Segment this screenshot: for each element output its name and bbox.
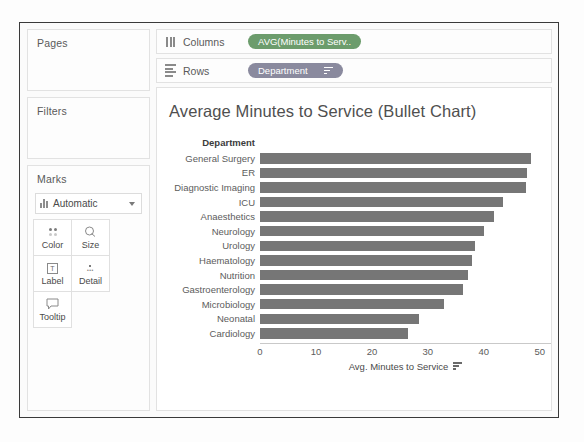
- marks-tooltip-button[interactable]: Tooltip: [33, 291, 72, 328]
- marks-size-button[interactable]: Size: [71, 219, 110, 256]
- category-label: Nutrition: [157, 270, 260, 281]
- x-axis-tick: 50: [535, 346, 546, 357]
- marks-label-label: Label: [41, 277, 63, 286]
- bar-track: [260, 209, 551, 224]
- rows-shelf-label: Rows: [183, 65, 241, 77]
- bar-mark[interactable]: [260, 197, 503, 208]
- bar-mark[interactable]: [260, 153, 531, 164]
- bar-track: [260, 239, 551, 254]
- left-panel: Pages Filters Marks Automatic: [20, 23, 156, 417]
- rows-shelf[interactable]: Rows Department: [156, 58, 552, 83]
- marks-size-label: Size: [82, 241, 100, 250]
- bar-mark[interactable]: [260, 211, 494, 222]
- table-row[interactable]: Neurology: [157, 224, 551, 239]
- pill-avg-minutes-to-service[interactable]: AVG(Minutes to Serv..: [248, 34, 361, 49]
- pages-card[interactable]: Pages: [27, 29, 150, 91]
- x-axis-tick: 10: [311, 346, 322, 357]
- page-title: Average Minutes to Service (Bullet Chart…: [169, 102, 476, 121]
- category-label: Cardiology: [157, 328, 260, 339]
- x-axis-title[interactable]: Avg. Minutes to Service: [260, 361, 551, 372]
- category-label: General Surgery: [157, 153, 260, 164]
- tableau-worksheet-window: Pages Filters Marks Automatic: [19, 22, 559, 418]
- columns-shelf-label: Columns: [183, 36, 241, 48]
- chart-view[interactable]: Average Minutes to Service (Bullet Chart…: [156, 87, 552, 411]
- category-label: Haematology: [157, 255, 260, 266]
- bar-track: [260, 297, 551, 312]
- rows-icon: [165, 66, 176, 76]
- pill-avg-minutes-to-service-label: AVG(Minutes to Serv..: [258, 36, 351, 47]
- bar-mark[interactable]: [260, 226, 484, 237]
- marks-label-button[interactable]: T Label: [33, 255, 72, 292]
- table-row[interactable]: ICU: [157, 195, 551, 210]
- table-row[interactable]: Nutrition: [157, 268, 551, 283]
- bar-track: [260, 180, 551, 195]
- svg-text:T: T: [50, 265, 55, 272]
- marks-color-label: Color: [42, 241, 64, 250]
- filters-card[interactable]: Filters: [27, 97, 150, 159]
- sort-descending-icon[interactable]: [324, 67, 333, 75]
- bar-chart-icon: [40, 199, 48, 208]
- marks-color-button[interactable]: Color: [33, 219, 72, 256]
- table-row[interactable]: Microbiology: [157, 297, 551, 312]
- marks-detail-button[interactable]: ••• Detail: [71, 255, 110, 292]
- category-label: Diagnostic Imaging: [157, 182, 260, 193]
- detail-dots-icon: •••: [87, 262, 94, 275]
- bar-track: [260, 253, 551, 268]
- table-row[interactable]: Cardiology: [157, 326, 551, 341]
- bar-mark[interactable]: [260, 284, 463, 295]
- bar-mark[interactable]: [260, 314, 419, 325]
- category-header-row: Department: [157, 136, 551, 148]
- category-label: Anaesthetics: [157, 211, 260, 222]
- bar-mark[interactable]: [260, 270, 468, 281]
- table-row[interactable]: General Surgery: [157, 151, 551, 166]
- marks-type-value: Automatic: [53, 198, 124, 209]
- table-row[interactable]: Urology: [157, 239, 551, 254]
- right-panel: Columns AVG(Minutes to Serv.. Rows Depar…: [156, 23, 558, 417]
- x-axis-title-label: Avg. Minutes to Service: [349, 361, 449, 372]
- columns-shelf[interactable]: Columns AVG(Minutes to Serv..: [156, 29, 552, 54]
- bar-mark[interactable]: [260, 168, 527, 179]
- table-row[interactable]: ER: [157, 166, 551, 181]
- color-dots-icon: [49, 226, 57, 239]
- marks-type-dropdown[interactable]: Automatic: [35, 193, 142, 214]
- category-label: ICU: [157, 197, 260, 208]
- columns-icon: [165, 37, 176, 47]
- table-row[interactable]: Anaesthetics: [157, 209, 551, 224]
- bar-track: [260, 166, 551, 181]
- plot-area: Department General SurgeryERDiagnostic I…: [157, 136, 551, 410]
- chevron-down-icon[interactable]: [129, 202, 135, 206]
- bar-mark[interactable]: [260, 328, 408, 339]
- bar-rows: General SurgeryERDiagnostic ImagingICUAn…: [157, 151, 551, 341]
- marks-detail-label: Detail: [79, 277, 102, 286]
- bar-mark[interactable]: [260, 182, 526, 193]
- marks-card: Marks Automatic Color: [27, 165, 150, 411]
- bar-track: [260, 224, 551, 239]
- x-axis-tick: 0: [257, 346, 262, 357]
- pill-department[interactable]: Department: [248, 63, 343, 78]
- category-label: ER: [157, 167, 260, 178]
- marks-tooltip-label: Tooltip: [39, 313, 65, 322]
- bar-mark[interactable]: [260, 241, 475, 252]
- category-label: Neonatal: [157, 313, 260, 324]
- bar-mark[interactable]: [260, 299, 444, 310]
- table-row[interactable]: Haematology: [157, 253, 551, 268]
- category-label: Urology: [157, 240, 260, 251]
- pages-card-title: Pages: [28, 30, 149, 49]
- bar-track: [260, 282, 551, 297]
- category-label: Gastroenterology: [157, 284, 260, 295]
- x-axis: 01020304050: [260, 343, 551, 358]
- x-axis-tick: 40: [479, 346, 490, 357]
- size-circle-icon: [84, 226, 97, 239]
- table-row[interactable]: Gastroenterology: [157, 282, 551, 297]
- tooltip-bubble-icon: [46, 298, 59, 311]
- filters-card-title: Filters: [28, 98, 149, 117]
- table-row[interactable]: Diagnostic Imaging: [157, 180, 551, 195]
- x-axis-tick: 20: [367, 346, 378, 357]
- pill-department-label: Department: [258, 65, 308, 76]
- bar-track: [260, 151, 551, 166]
- sort-descending-icon[interactable]: [453, 362, 462, 370]
- x-axis-tick: 30: [423, 346, 434, 357]
- bar-mark[interactable]: [260, 255, 472, 266]
- table-row[interactable]: Neonatal: [157, 312, 551, 327]
- bar-track: [260, 326, 551, 341]
